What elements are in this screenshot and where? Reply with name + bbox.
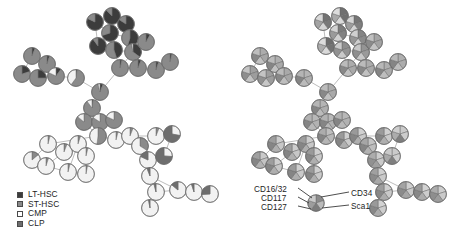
tree-node (268, 136, 285, 153)
tree-node (156, 148, 173, 165)
tree-node (334, 42, 351, 59)
marker-label-cd1632: CD16/32 (254, 185, 287, 194)
tree-node (186, 184, 203, 201)
tree-node (92, 84, 109, 101)
cell-type-legend: LT-HSC ST-HSC CMP CLP (17, 190, 59, 228)
tree-node (242, 66, 259, 83)
tree-node (392, 126, 409, 143)
tree-node (170, 182, 187, 199)
tree-node (202, 186, 219, 203)
tree-node (78, 166, 95, 183)
tree-node (102, 25, 119, 42)
tree-node (164, 126, 181, 143)
tree-node (296, 70, 313, 87)
tree-node (148, 128, 165, 145)
tree-node (142, 168, 159, 185)
tree-node (68, 70, 85, 87)
tree-node (318, 38, 335, 55)
marker-key-leader (321, 192, 349, 197)
pie-wedge (90, 128, 98, 145)
tree-node (306, 166, 323, 183)
legend-swatch-st-hsc (17, 201, 23, 207)
tree-node (138, 34, 155, 51)
tree-node (87, 14, 104, 31)
tree-node (162, 54, 179, 71)
marker-label-cd34: CD34 (351, 189, 372, 198)
tree-node (430, 186, 447, 203)
legend-swatch-clp (17, 221, 23, 227)
tree-node (142, 200, 159, 217)
tree-node (366, 34, 383, 51)
tree-node (148, 184, 165, 201)
tree-node (106, 42, 123, 59)
tree-node (30, 70, 47, 87)
marker-key: CD16/32 CD117 CD127 CD34 Sca1 (254, 185, 384, 225)
tree-node (252, 48, 269, 65)
legend-label-clp: CLP (28, 219, 45, 229)
tree-node (390, 54, 407, 71)
marker-label-cd117: CD117 (261, 194, 286, 203)
marker-key-leader (298, 197, 309, 203)
tree-node (340, 60, 357, 77)
tree-node (48, 68, 65, 85)
tree-node (112, 60, 129, 77)
panel-cell-type-composition: LT-HSC ST-HSC CMP CLP (0, 0, 228, 235)
tree-node (266, 158, 283, 175)
marker-label-cd127: CD127 (261, 203, 287, 212)
marker-label-sca1: Sca1 (351, 202, 370, 211)
tree-node (334, 112, 351, 129)
tree-node (318, 128, 335, 145)
tree-node (376, 128, 393, 145)
legend-swatch-lt-hsc (17, 192, 23, 198)
tree-node (140, 152, 157, 169)
tree-node (315, 14, 332, 31)
tree-node (320, 84, 337, 101)
tree-node (258, 70, 275, 87)
tree-node (60, 164, 77, 181)
tree-node (14, 66, 31, 83)
tree-node (130, 60, 147, 77)
tree-node (330, 25, 347, 42)
legend-item-clp: CLP (17, 219, 59, 229)
tree-node (288, 164, 305, 181)
tree-node (276, 68, 293, 85)
tree-node (90, 128, 107, 145)
tree-node (78, 148, 95, 165)
figure-root: LT-HSC ST-HSC CMP CLP CD16/32 CD117 CD12… (0, 0, 456, 235)
marker-key-leader (322, 205, 349, 208)
tree-node (414, 184, 431, 201)
tree-node (306, 148, 323, 165)
tree-node (76, 114, 93, 131)
pie-wedge (97, 128, 106, 145)
tree-node (384, 148, 401, 165)
marker-key-leader (298, 188, 312, 198)
tree-node (24, 48, 41, 65)
tree-node (90, 38, 107, 55)
tree-node (38, 158, 55, 175)
tree-node (358, 60, 375, 77)
tree-node (304, 114, 321, 131)
tree-node (368, 152, 385, 169)
tree-node (398, 182, 415, 199)
tree-node (40, 136, 57, 153)
tree-node (106, 112, 123, 129)
tree-node (370, 168, 387, 185)
legend-swatch-cmp (17, 211, 23, 217)
